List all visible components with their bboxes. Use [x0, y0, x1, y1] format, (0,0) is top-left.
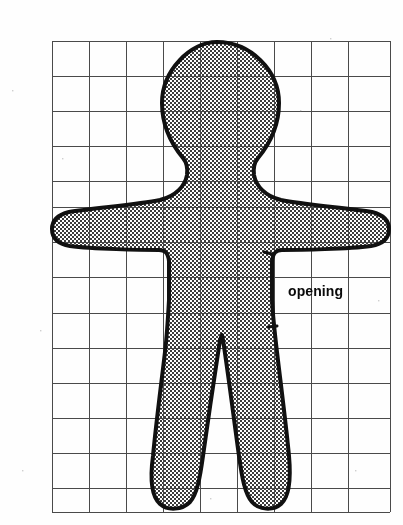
pattern-page: opening	[0, 0, 403, 525]
pattern-diagram-canvas	[0, 0, 403, 525]
opening-label: opening	[288, 283, 343, 299]
